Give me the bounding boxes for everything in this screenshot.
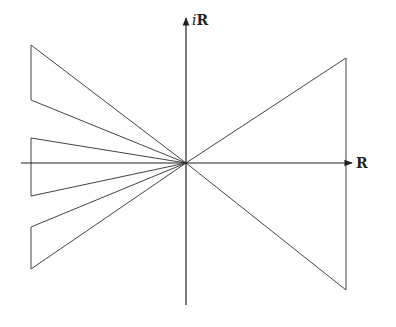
wedges-group	[31, 45, 346, 290]
left-upper-wedge	[31, 45, 186, 163]
right-wedge	[186, 58, 346, 290]
left-lower-wedge	[31, 163, 186, 269]
imaginary-axis-label-text: R	[196, 12, 208, 28]
imaginary-axis-label: iR	[192, 12, 208, 28]
left-middle-wedge	[31, 138, 186, 196]
complex-plane-diagram	[0, 0, 396, 327]
real-axis-label: R	[356, 155, 368, 171]
real-axis-label-text: R	[356, 155, 368, 171]
